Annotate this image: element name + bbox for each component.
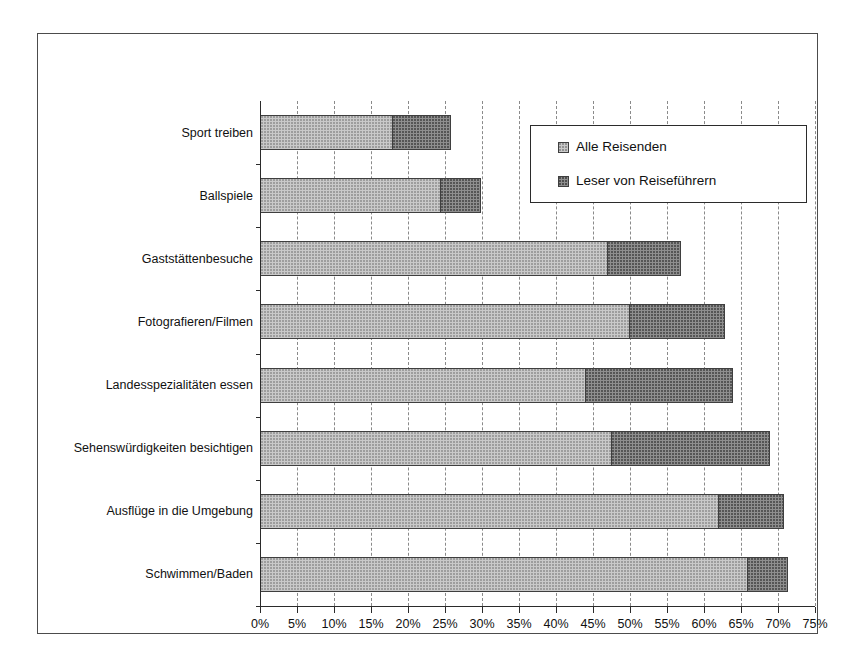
x-tick-label-60%: 60% — [691, 617, 716, 632]
gridline-75% — [815, 101, 816, 606]
chart-page: Sport treibenBallspieleGaststättenbesuch… — [0, 0, 857, 670]
stacked-bar — [260, 557, 789, 592]
chart-legend: Alle Reisenden Leser von Reiseführern — [530, 125, 807, 203]
bar-segment-leser-von-reisefuehrern — [747, 557, 788, 592]
stacked-bar — [260, 178, 482, 213]
bar-segment-alle-reisenden — [260, 115, 393, 150]
x-tick-15% — [371, 607, 372, 613]
legend-label-alle-reisenden: Alle Reisenden — [576, 139, 667, 155]
stacked-bar — [260, 431, 771, 466]
bar-row — [260, 417, 815, 480]
category-axis-labels: Sport treibenBallspieleGaststättenbesuch… — [38, 101, 253, 606]
bar-row — [260, 290, 815, 353]
bar-segment-leser-von-reisefuehrern — [629, 304, 725, 339]
stacked-bar — [260, 304, 726, 339]
category-label: Fotografieren/Filmen — [138, 315, 253, 329]
x-tick-label-30%: 30% — [469, 617, 494, 632]
x-tick-75% — [815, 607, 816, 613]
category-label: Ausflüge in die Umgebung — [106, 504, 253, 518]
bar-row — [260, 354, 815, 417]
category-label: Ballspiele — [199, 189, 253, 203]
y-tick — [256, 290, 261, 291]
x-tick-label-50%: 50% — [617, 617, 642, 632]
legend-label-leser-von-reisefuehrern: Leser von Reiseführern — [576, 173, 716, 189]
x-tick-label-5%: 5% — [288, 617, 306, 632]
bar-segment-alle-reisenden — [260, 368, 586, 403]
y-tick — [256, 543, 261, 544]
x-tick-label-65%: 65% — [728, 617, 753, 632]
bar-segment-alle-reisenden — [260, 178, 441, 213]
y-tick — [256, 164, 261, 165]
x-tick-35% — [519, 607, 520, 613]
bar-segment-leser-von-reisefuehrern — [585, 368, 733, 403]
bar-segment-leser-von-reisefuehrern — [440, 178, 481, 213]
x-tick-label-0%: 0% — [251, 617, 269, 632]
x-tick-5% — [297, 607, 298, 613]
y-tick — [256, 480, 261, 481]
x-tick-10% — [334, 607, 335, 613]
x-tick-label-10%: 10% — [321, 617, 346, 632]
bar-segment-leser-von-reisefuehrern — [611, 431, 770, 466]
x-tick-label-45%: 45% — [580, 617, 605, 632]
x-tick-label-35%: 35% — [506, 617, 531, 632]
bar-segment-alle-reisenden — [260, 494, 719, 529]
category-label: Schwimmen/Baden — [145, 567, 253, 581]
x-tick-70% — [778, 607, 779, 613]
x-tick-50% — [630, 607, 631, 613]
bar-segment-alle-reisenden — [260, 241, 608, 276]
y-tick — [256, 417, 261, 418]
x-tick-40% — [556, 607, 557, 613]
bar-segment-leser-von-reisefuehrern — [718, 494, 785, 529]
bar-row — [260, 480, 815, 543]
legend-entry-leser-von-reisefuehrern: Leser von Reiseführern — [558, 173, 716, 189]
x-tick-65% — [741, 607, 742, 613]
bar-segment-alle-reisenden — [260, 557, 748, 592]
bar-row — [260, 227, 815, 290]
x-tick-label-75%: 75% — [802, 617, 827, 632]
bar-segment-leser-von-reisefuehrern — [607, 241, 681, 276]
figure-frame: Sport treibenBallspieleGaststättenbesuch… — [37, 33, 818, 634]
category-label: Sport treiben — [181, 126, 253, 140]
x-tick-label-55%: 55% — [654, 617, 679, 632]
stacked-bar — [260, 494, 785, 529]
y-tick — [256, 354, 261, 355]
bar-segment-alle-reisenden — [260, 304, 630, 339]
x-tick-label-25%: 25% — [432, 617, 457, 632]
x-tick-60% — [704, 607, 705, 613]
category-label: Sehenswürdigkeiten besichtigen — [74, 441, 253, 455]
bar-row — [260, 543, 815, 606]
x-tick-label-70%: 70% — [765, 617, 790, 632]
x-tick-55% — [667, 607, 668, 613]
category-label: Gaststättenbesuche — [142, 252, 253, 266]
x-tick-25% — [445, 607, 446, 613]
x-tick-45% — [593, 607, 594, 613]
x-axis-line — [260, 606, 815, 607]
x-axis-tick-labels: 0%5%10%15%20%25%30%35%40%45%50%55%60%65%… — [260, 617, 815, 635]
bar-segment-alle-reisenden — [260, 431, 612, 466]
stacked-bar — [260, 241, 682, 276]
x-tick-30% — [482, 607, 483, 613]
y-tick — [256, 227, 261, 228]
x-tick-0% — [260, 607, 261, 613]
legend-entry-alle-reisenden: Alle Reisenden — [558, 139, 667, 155]
y-axis-line — [260, 101, 261, 606]
legend-swatch-icon-dark — [558, 176, 569, 187]
legend-swatch-icon-light — [558, 142, 569, 153]
x-tick-20% — [408, 607, 409, 613]
category-label: Landesspezialitäten essen — [106, 378, 253, 392]
x-tick-label-40%: 40% — [543, 617, 568, 632]
x-tick-label-15%: 15% — [358, 617, 383, 632]
stacked-bar — [260, 115, 452, 150]
stacked-bar — [260, 368, 734, 403]
bar-segment-leser-von-reisefuehrern — [392, 115, 451, 150]
x-tick-label-20%: 20% — [395, 617, 420, 632]
